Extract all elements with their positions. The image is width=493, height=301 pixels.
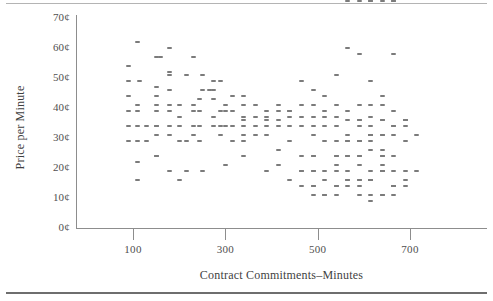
x-tick-label: 300 xyxy=(205,243,245,255)
scatter-point xyxy=(287,110,292,112)
scatter-point xyxy=(334,185,339,187)
scatter-point xyxy=(126,110,131,112)
scatter-point xyxy=(218,125,223,127)
scatter-point xyxy=(380,170,385,172)
scatter-point xyxy=(380,119,385,121)
scatter-point xyxy=(334,116,339,118)
scatter-point xyxy=(345,179,350,181)
scatter-point xyxy=(144,125,149,127)
x-tick-mark xyxy=(225,229,226,240)
scatter-point xyxy=(264,170,269,172)
scatter-point xyxy=(223,104,228,106)
scatter-point xyxy=(368,0,373,2)
scatter-point xyxy=(135,110,140,112)
scatter-point xyxy=(287,125,292,127)
scatter-point xyxy=(311,116,316,118)
scatter-point xyxy=(287,116,292,118)
scatter-point xyxy=(241,119,246,121)
scatter-point xyxy=(368,179,373,181)
scatter-point xyxy=(357,140,362,142)
scatter-point xyxy=(380,155,385,157)
scatter-point xyxy=(137,80,142,82)
scatter-point xyxy=(200,89,205,91)
scatter-point xyxy=(154,86,159,88)
scatter-point xyxy=(287,140,292,142)
scatter-point xyxy=(368,125,373,127)
x-tick-mark xyxy=(133,229,134,240)
scatter-point xyxy=(177,104,182,106)
scatter-point xyxy=(167,170,172,172)
scatter-point xyxy=(391,185,396,187)
scatter-point xyxy=(154,104,159,106)
scatter-point xyxy=(345,110,350,112)
scatter-point xyxy=(241,155,246,157)
scatter-point xyxy=(368,140,373,142)
scatter-point xyxy=(334,170,339,172)
scatter-point xyxy=(322,179,327,181)
y-tick-label: 0¢ xyxy=(28,221,70,233)
scatter-point xyxy=(380,194,385,196)
scatter-point xyxy=(391,125,396,127)
scatter-point xyxy=(253,104,258,106)
scatter-point xyxy=(230,140,235,142)
scatter-point xyxy=(135,41,140,43)
scatter-point xyxy=(299,170,304,172)
scatter-point xyxy=(380,119,385,121)
scatter-point xyxy=(345,140,350,142)
scatter-point xyxy=(154,155,159,157)
scatter-point xyxy=(368,0,373,2)
scatter-point xyxy=(299,155,304,157)
scatter-point xyxy=(167,47,172,49)
scatter-point xyxy=(357,185,362,187)
scatter-point xyxy=(299,170,304,172)
scatter-point xyxy=(357,119,362,121)
scatter-point xyxy=(391,185,396,187)
scatter-point xyxy=(311,104,316,106)
x-tick-label: 700 xyxy=(390,243,430,255)
scatter-point xyxy=(154,134,159,136)
scatter-point xyxy=(264,125,269,127)
y-tick-label: 60¢ xyxy=(28,41,70,53)
scatter-point xyxy=(177,140,182,142)
scatter-point xyxy=(391,0,396,2)
scatter-point xyxy=(167,71,172,73)
scatter-point xyxy=(414,134,419,136)
scatter-point xyxy=(311,185,316,187)
scatter-point xyxy=(158,56,163,58)
x-tick-mark xyxy=(410,229,411,240)
x-tick-label: 500 xyxy=(298,243,338,255)
scatter-point xyxy=(276,110,281,112)
scatter-point xyxy=(368,80,373,82)
scatter-point xyxy=(211,80,216,82)
scatter-point xyxy=(391,0,396,2)
scatter-point xyxy=(357,104,362,106)
scatter-point xyxy=(276,104,281,106)
scatter-point xyxy=(311,155,316,157)
scatter-point xyxy=(403,179,408,181)
scatter-point xyxy=(311,125,316,127)
scatter-point xyxy=(135,125,140,127)
scatter-point xyxy=(230,110,235,112)
scatter-point xyxy=(126,125,131,127)
y-tick-label: 40¢ xyxy=(28,101,70,113)
scatter-point xyxy=(345,47,350,49)
scatter-point xyxy=(154,125,159,127)
scatter-point xyxy=(380,134,385,136)
scatter-point xyxy=(391,155,396,157)
scatter-point xyxy=(357,140,362,142)
scatter-point xyxy=(357,140,362,142)
y-tick-label: 30¢ xyxy=(28,131,70,143)
scatter-point xyxy=(276,125,281,127)
scatter-point xyxy=(299,80,304,82)
scatter-point xyxy=(287,179,292,181)
scatter-point xyxy=(357,53,362,55)
scatter-point xyxy=(322,140,327,142)
scatter-point xyxy=(380,104,385,106)
scatter-point xyxy=(253,125,258,127)
scatter-point xyxy=(345,155,350,157)
scatter-point xyxy=(135,161,140,163)
scatter-point xyxy=(299,104,304,106)
scatter-point xyxy=(311,170,316,172)
x-axis-title: Contract Commitments–Minutes xyxy=(76,268,487,283)
scatter-point xyxy=(177,116,182,118)
